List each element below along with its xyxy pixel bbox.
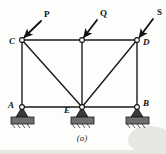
support-A-base xyxy=(11,117,34,124)
joint-A xyxy=(20,105,25,110)
support-A-hatch xyxy=(12,124,15,128)
support-E-hatch xyxy=(82,124,85,128)
joint-label-E: E xyxy=(63,105,70,115)
load-labels: P Q S xyxy=(44,7,162,19)
member-D-E-diagonal xyxy=(82,40,137,107)
joint-C xyxy=(20,38,25,43)
page-shadow xyxy=(128,126,166,154)
support-A xyxy=(11,107,34,128)
joint-top-middle xyxy=(80,38,85,43)
joint-B xyxy=(135,105,140,110)
load-arrows xyxy=(25,19,154,37)
support-B-hatch xyxy=(137,124,140,128)
load-arrow-S xyxy=(140,19,154,37)
joint-D xyxy=(135,38,140,43)
truss-diagram: C D A E B P Q S (a) xyxy=(0,0,166,154)
support-E-base xyxy=(71,117,94,124)
support-B-hatch xyxy=(127,124,130,128)
support-B-base xyxy=(126,117,149,124)
support-E-hatch xyxy=(77,124,80,128)
support-A-hatch xyxy=(17,124,20,128)
joint-label-C: C xyxy=(9,36,16,46)
support-E xyxy=(71,107,94,128)
support-E-hatch xyxy=(72,124,75,128)
joint-label-D: D xyxy=(142,37,150,47)
truss-members xyxy=(22,40,137,107)
truss-joints xyxy=(20,38,140,110)
load-label-Q: Q xyxy=(100,8,107,18)
load-arrow-P xyxy=(25,21,42,37)
joint-label-A: A xyxy=(7,100,14,110)
joint-label-B: B xyxy=(142,98,149,108)
load-label-S: S xyxy=(157,7,162,17)
support-A-hatch xyxy=(22,124,25,128)
support-B xyxy=(126,107,149,128)
support-A-hatch xyxy=(27,124,30,128)
figure-caption: (a) xyxy=(77,133,88,143)
load-arrow-Q xyxy=(84,20,97,37)
member-C-E-diagonal xyxy=(22,40,82,107)
load-label-P: P xyxy=(44,9,50,19)
figure-canvas: C D A E B P Q S (a) xyxy=(0,0,166,154)
support-B-hatch xyxy=(132,124,135,128)
joint-E xyxy=(80,105,85,110)
page-edge-shadow xyxy=(0,150,166,154)
support-E-hatch xyxy=(87,124,90,128)
